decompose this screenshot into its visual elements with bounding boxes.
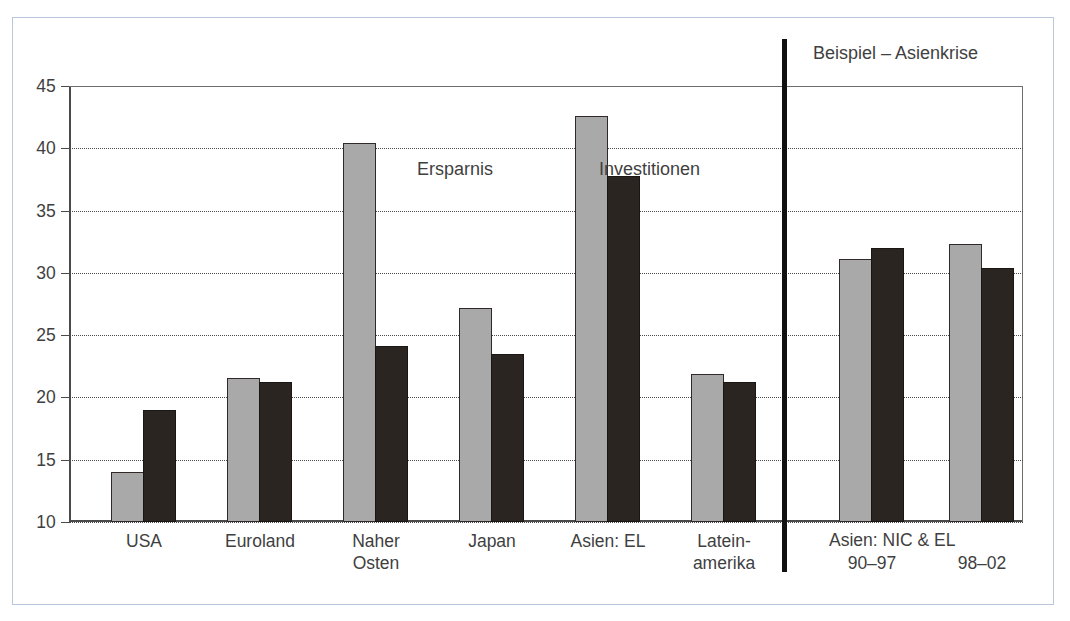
y-tick-20 bbox=[61, 397, 69, 398]
series-label-investitionen: Investitionen bbox=[599, 159, 700, 180]
y-tick-label-40: 40 bbox=[36, 138, 56, 159]
gridline-10 bbox=[69, 522, 1023, 523]
x-axis-label: Japan bbox=[431, 530, 553, 552]
y-tick-label-20: 20 bbox=[36, 387, 56, 408]
x-axis-label: Euroland bbox=[199, 530, 321, 552]
bar-group bbox=[343, 86, 409, 522]
y-tick-40 bbox=[61, 148, 69, 149]
y-tick-25 bbox=[61, 335, 69, 336]
x-axis-label: Latein- amerika bbox=[663, 530, 785, 574]
y-tick-15 bbox=[61, 460, 69, 461]
y-tick-label-30: 30 bbox=[36, 262, 56, 283]
bar-ersparnis bbox=[949, 244, 982, 522]
bar-investitionen bbox=[723, 382, 756, 522]
y-tick-label-15: 15 bbox=[36, 449, 56, 470]
bar-ersparnis bbox=[839, 259, 872, 522]
panel-divider-line bbox=[782, 39, 787, 572]
y-tick-35 bbox=[61, 211, 69, 212]
bar-investitionen bbox=[259, 382, 292, 522]
x-axis-label: USA bbox=[83, 530, 205, 552]
chart-figure: 1015202530354045 USAEurolandNaher OstenJ… bbox=[12, 17, 1054, 605]
y-tick-label-25: 25 bbox=[36, 325, 56, 346]
y-axis-line bbox=[69, 86, 71, 522]
series-label-ersparnis: Ersparnis bbox=[417, 159, 493, 180]
bar-investitionen bbox=[491, 354, 524, 522]
x-axis-label: Naher Osten bbox=[315, 530, 437, 574]
bar-ersparnis bbox=[691, 374, 724, 522]
bar-group bbox=[575, 86, 641, 522]
x-axis-group-header: Asien: NIC & EL bbox=[829, 530, 955, 551]
y-tick-label-45: 45 bbox=[36, 76, 56, 97]
plot-right-border bbox=[1022, 86, 1023, 522]
x-axis-label: 90–97 bbox=[811, 552, 933, 574]
plot-area: 1015202530354045 USAEurolandNaher OstenJ… bbox=[69, 86, 1023, 522]
y-tick-label-10: 10 bbox=[36, 512, 56, 533]
bar-ersparnis bbox=[343, 143, 376, 522]
bar-group bbox=[459, 86, 525, 522]
bar-group bbox=[691, 86, 757, 522]
bar-investitionen bbox=[143, 410, 176, 522]
y-tick-30 bbox=[61, 273, 69, 274]
plot-wrapper: 1015202530354045 USAEurolandNaher OstenJ… bbox=[13, 18, 1053, 604]
bar-ersparnis bbox=[227, 378, 260, 523]
bar-investitionen bbox=[981, 268, 1014, 522]
bar-ersparnis bbox=[111, 472, 144, 522]
bar-investitionen bbox=[375, 346, 408, 522]
y-tick-10 bbox=[61, 522, 69, 523]
x-axis-label: Asien: EL bbox=[547, 530, 669, 552]
y-tick-label-35: 35 bbox=[36, 200, 56, 221]
panel-label-beispiel-asienkrise: Beispiel – Asienkrise bbox=[813, 43, 978, 64]
bar-group bbox=[227, 86, 293, 522]
bar-group bbox=[839, 86, 905, 522]
y-tick-45 bbox=[61, 86, 69, 87]
bar-group bbox=[949, 86, 1015, 522]
bar-group bbox=[111, 86, 177, 522]
bar-investitionen bbox=[607, 176, 640, 522]
x-axis-label: 98–02 bbox=[921, 552, 1043, 574]
bar-investitionen bbox=[871, 248, 904, 522]
bar-ersparnis bbox=[459, 308, 492, 522]
